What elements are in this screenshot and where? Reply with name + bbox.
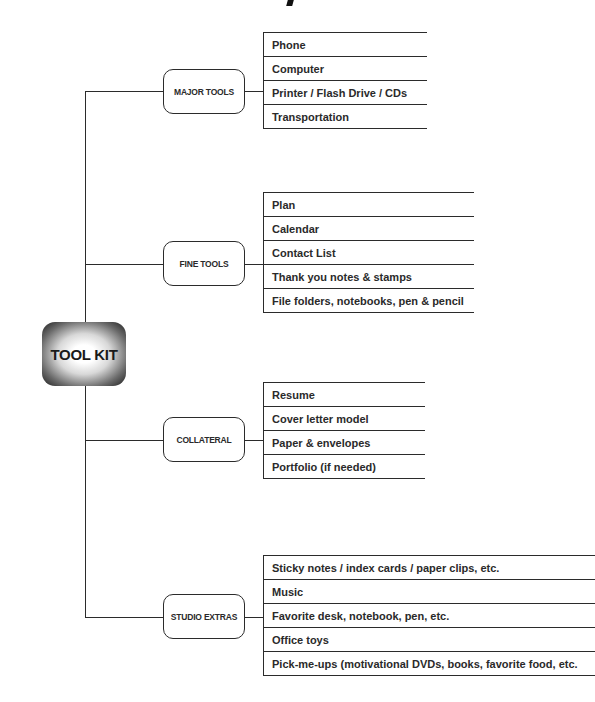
list-item-text: Office toys — [272, 634, 329, 646]
list-item-text: Thank you notes & stamps — [272, 271, 412, 283]
list-item-text: File folders, notebooks, pen & pencil — [272, 295, 464, 307]
item-list-collateral: Resume Cover letter model Paper & envelo… — [263, 382, 425, 479]
list-item-text: Resume — [272, 389, 315, 401]
list-item: Portfolio (if needed) — [264, 454, 425, 479]
list-item: Cover letter model — [264, 406, 425, 430]
list-item: Transportation — [264, 104, 427, 129]
list-connector-studio-extras — [245, 617, 263, 618]
title-fragment — [286, 0, 294, 6]
list-item-text: Plan — [272, 199, 295, 211]
category-label: COLLATERAL — [177, 435, 232, 445]
list-item-text: Pick-me-ups (motivational DVDs, books, f… — [272, 658, 578, 670]
list-item: Paper & envelopes — [264, 430, 425, 454]
list-item-text: Favorite desk, notebook, pen, etc. — [272, 610, 449, 622]
category-node-collateral: COLLATERAL — [163, 417, 245, 462]
list-item: Calendar — [264, 216, 474, 240]
list-item: Phone — [264, 32, 427, 56]
category-node-major-tools: MAJOR TOOLS — [163, 69, 245, 114]
list-item-text: Phone — [272, 39, 306, 51]
list-item-text: Portfolio (if needed) — [272, 461, 376, 473]
list-item: Pick-me-ups (motivational DVDs, books, f… — [264, 651, 595, 676]
branch-connector-fine-tools — [85, 264, 163, 265]
list-item-text: Cover letter model — [272, 413, 369, 425]
list-item-text: Calendar — [272, 223, 319, 235]
category-label: STUDIO EXTRAS — [171, 612, 237, 622]
category-node-studio-extras: STUDIO EXTRAS — [163, 594, 245, 639]
list-item-text: Paper & envelopes — [272, 437, 370, 449]
list-item: Contact List — [264, 240, 474, 264]
list-item-text: Sticky notes / index cards / paper clips… — [272, 562, 499, 574]
list-item-text: Music — [272, 586, 303, 598]
list-item: Computer — [264, 56, 427, 80]
tool-kit-root-node: TOOL KIT — [42, 322, 126, 386]
item-list-studio-extras: Sticky notes / index cards / paper clips… — [263, 555, 595, 676]
list-item-text: Contact List — [272, 247, 336, 259]
list-item-text: Printer / Flash Drive / CDs — [272, 87, 407, 99]
list-item: Sticky notes / index cards / paper clips… — [264, 555, 595, 579]
list-connector-fine-tools — [245, 264, 263, 265]
category-node-fine-tools: FINE TOOLS — [163, 241, 245, 286]
list-item: File folders, notebooks, pen & pencil — [264, 288, 474, 313]
list-item: Thank you notes & stamps — [264, 264, 474, 288]
list-item: Music — [264, 579, 595, 603]
branch-connector-collateral — [85, 440, 163, 441]
list-item: Favorite desk, notebook, pen, etc. — [264, 603, 595, 627]
list-item: Printer / Flash Drive / CDs — [264, 80, 427, 104]
branch-connector-major-tools — [85, 91, 163, 92]
branch-connector-studio-extras — [85, 617, 163, 618]
list-item: Office toys — [264, 627, 595, 651]
list-item-text: Transportation — [272, 111, 349, 123]
list-item: Resume — [264, 382, 425, 406]
item-list-major-tools: Phone Computer Printer / Flash Drive / C… — [263, 32, 427, 129]
item-list-fine-tools: Plan Calendar Contact List Thank you not… — [263, 192, 474, 313]
category-label: MAJOR TOOLS — [174, 87, 234, 97]
list-connector-major-tools — [245, 91, 263, 92]
list-item-text: Computer — [272, 63, 324, 75]
list-item: Plan — [264, 192, 474, 216]
list-connector-collateral — [245, 440, 263, 441]
root-label: TOOL KIT — [50, 346, 117, 363]
category-label: FINE TOOLS — [180, 259, 229, 269]
